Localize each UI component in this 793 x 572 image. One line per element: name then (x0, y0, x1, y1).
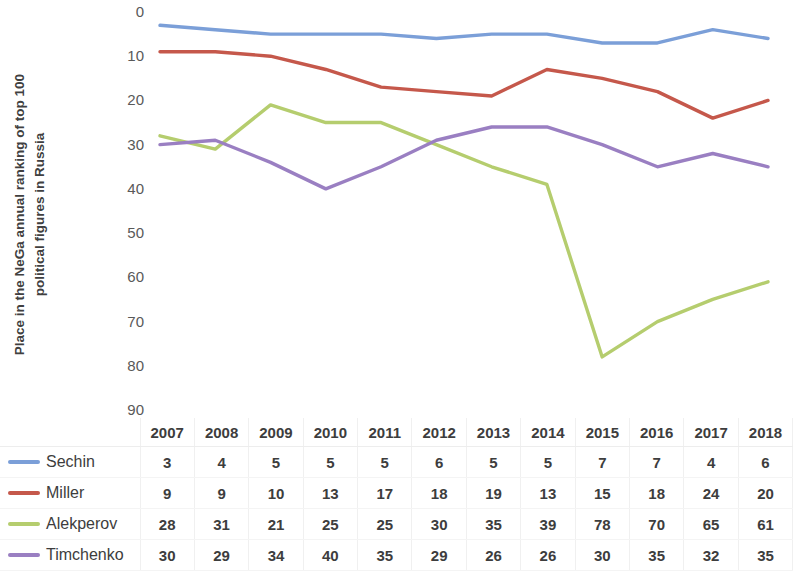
series-line-miller (160, 52, 768, 118)
table-value-cell: 30 (140, 540, 194, 571)
legend-item-alekperov[interactable]: Alekperov (0, 509, 140, 540)
table-value-cell: 25 (303, 509, 357, 540)
table-value-cell: 40 (303, 540, 357, 571)
table-value-cell: 19 (466, 478, 520, 509)
line-chart-svg: 0102030405060708090 (60, 0, 793, 418)
chart-page: Place in the NeGa annual ranking of top … (0, 0, 793, 572)
series-line-timchenko (160, 127, 768, 189)
y-axis-tick-label: 40 (127, 180, 144, 197)
table-year-header: 2012 (412, 418, 466, 447)
table-value-cell: 35 (738, 540, 792, 571)
table-value-cell: 21 (249, 509, 303, 540)
table-value-cell: 39 (521, 509, 575, 540)
table-year-header: 2008 (194, 418, 248, 447)
table-year-header: 2018 (738, 418, 792, 447)
table-value-cell: 6 (738, 447, 792, 478)
y-axis-tick-label: 30 (127, 136, 144, 153)
table-row: Timchenko302934403529262630353235 (0, 540, 793, 571)
table-year-header: 2007 (140, 418, 194, 447)
table-value-cell: 20 (738, 478, 792, 509)
y-axis-tick-label: 10 (127, 47, 144, 64)
legend-item-miller[interactable]: Miller (0, 478, 140, 509)
table-value-cell: 29 (412, 540, 466, 571)
table-value-cell: 30 (575, 540, 629, 571)
table-value-cell: 5 (249, 447, 303, 478)
series-data-table: 2007200820092010201120122013201420152016… (0, 418, 793, 571)
table-value-cell: 18 (630, 478, 684, 509)
y-axis-tick-label: 80 (127, 357, 144, 374)
table-value-cell: 10 (249, 478, 303, 509)
y-axis-title-line-1: Place in the NeGa annual ranking of top … (10, 74, 30, 355)
y-axis-tick-label: 90 (127, 401, 144, 418)
table-value-cell: 3 (140, 447, 194, 478)
table-value-cell: 30 (412, 509, 466, 540)
table-year-header: 2016 (630, 418, 684, 447)
legend-swatch-icon (8, 460, 40, 464)
table-value-cell: 9 (140, 478, 194, 509)
legend-swatch-icon (8, 522, 40, 526)
table-value-cell: 65 (684, 509, 738, 540)
table-value-cell: 4 (684, 447, 738, 478)
table-row: Alekperov283121252530353978706561 (0, 509, 793, 540)
table-value-cell: 70 (630, 509, 684, 540)
table-value-cell: 7 (630, 447, 684, 478)
table-value-cell: 32 (684, 540, 738, 571)
table-year-header: 2014 (521, 418, 575, 447)
legend-swatch-icon (8, 491, 40, 495)
table-value-cell: 5 (466, 447, 520, 478)
legend-label: Alekperov (46, 515, 117, 533)
table-value-cell: 28 (140, 509, 194, 540)
table-value-cell: 17 (358, 478, 412, 509)
table-value-cell: 26 (521, 540, 575, 571)
table-value-cell: 34 (249, 540, 303, 571)
table-value-cell: 4 (194, 447, 248, 478)
table-year-header: 2011 (358, 418, 412, 447)
table-value-cell: 61 (738, 509, 792, 540)
series-line-sechin (160, 25, 768, 43)
table-value-cell: 78 (575, 509, 629, 540)
table-year-header: 2010 (303, 418, 357, 447)
y-axis-tick-label: 70 (127, 313, 144, 330)
table-year-header: 2013 (466, 418, 520, 447)
table-value-cell: 26 (466, 540, 520, 571)
y-axis-title: Place in the NeGa annual ranking of top … (0, 0, 60, 430)
table-year-header: 2009 (249, 418, 303, 447)
table-value-cell: 25 (358, 509, 412, 540)
table-value-cell: 35 (358, 540, 412, 571)
legend-item-timchenko[interactable]: Timchenko (0, 540, 140, 571)
table-value-cell: 35 (466, 509, 520, 540)
table-corner-cell (0, 418, 140, 447)
table-value-cell: 13 (521, 478, 575, 509)
table-value-cell: 5 (521, 447, 575, 478)
table-value-cell: 24 (684, 478, 738, 509)
table-value-cell: 13 (303, 478, 357, 509)
data-table-area: 2007200820092010201120122013201420152016… (0, 418, 793, 572)
plot-area: 0102030405060708090 (60, 0, 793, 418)
legend-label: Miller (46, 484, 84, 502)
table-value-cell: 5 (358, 447, 412, 478)
table-year-header: 2017 (684, 418, 738, 447)
table-header-row: 2007200820092010201120122013201420152016… (0, 418, 793, 447)
table-row: Sechin345556557746 (0, 447, 793, 478)
table-value-cell: 29 (194, 540, 248, 571)
table-value-cell: 5 (303, 447, 357, 478)
y-axis-tick-label: 60 (127, 268, 144, 285)
table-row: Miller9910131718191315182420 (0, 478, 793, 509)
y-axis-tick-label: 50 (127, 224, 144, 241)
table-value-cell: 15 (575, 478, 629, 509)
legend-swatch-icon (8, 553, 40, 557)
table-value-cell: 7 (575, 447, 629, 478)
table-year-header: 2015 (575, 418, 629, 447)
y-axis-tick-label: 20 (127, 91, 144, 108)
y-axis-tick-label: 0 (136, 3, 144, 20)
table-value-cell: 35 (630, 540, 684, 571)
table-value-cell: 6 (412, 447, 466, 478)
y-axis-title-line-2: political figures in Russia (30, 74, 50, 355)
table-value-cell: 9 (194, 478, 248, 509)
table-value-cell: 18 (412, 478, 466, 509)
legend-label: Sechin (46, 453, 95, 471)
legend-label: Timchenko (46, 546, 124, 564)
series-line-alekperov (160, 105, 768, 357)
legend-item-sechin[interactable]: Sechin (0, 447, 140, 478)
table-value-cell: 31 (194, 509, 248, 540)
